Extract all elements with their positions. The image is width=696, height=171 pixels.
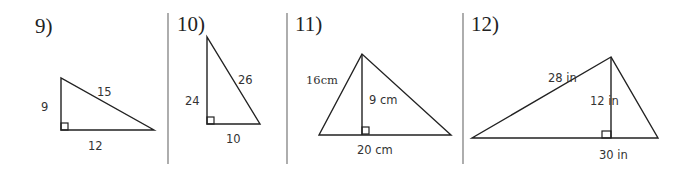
problem-11-height: 9 cm bbox=[369, 93, 398, 107]
problem-11-left-side-value: 16 bbox=[306, 73, 321, 87]
triangle-11: 16cm 9 cm 20 cm bbox=[306, 54, 451, 157]
triangle-10: 24 26 10 bbox=[185, 37, 260, 146]
triangle-9: 9 15 12 bbox=[41, 78, 154, 153]
right-angle-marker bbox=[602, 131, 611, 138]
problem-10-base: 10 bbox=[226, 132, 241, 146]
problem-9-left-leg: 9 bbox=[41, 100, 48, 114]
problem-12-base: 30 in bbox=[599, 148, 628, 162]
triangle-12: 28 in 12 in 30 in bbox=[472, 57, 658, 162]
problem-12-height: 12 in bbox=[590, 94, 619, 108]
problem-10-hypotenuse: 26 bbox=[238, 73, 253, 87]
diagram-canvas: 9 15 12 24 26 10 16cm 9 cm 20 cm 28 in bbox=[0, 0, 696, 171]
problem-11-left-side-unit: cm bbox=[321, 73, 338, 87]
problem-9-hypotenuse: 15 bbox=[97, 85, 112, 99]
right-angle-marker bbox=[362, 127, 369, 134]
problem-9-base: 12 bbox=[88, 139, 103, 153]
problem-10-left-leg: 24 bbox=[185, 94, 200, 108]
right-angle-marker bbox=[207, 117, 214, 124]
worksheet-triangles: 9) 10) 11) 12) 9 15 12 24 26 10 16c bbox=[0, 0, 696, 171]
problem-12-left-side: 28 in bbox=[548, 71, 577, 85]
right-angle-marker bbox=[61, 123, 68, 130]
problem-11-base: 20 cm bbox=[357, 143, 393, 157]
problem-11-left-side: 16cm bbox=[306, 73, 338, 87]
